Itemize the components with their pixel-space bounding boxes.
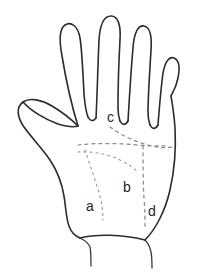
hand-diagram-figure: c b a d	[0, 0, 203, 273]
hand-drawing	[0, 0, 203, 273]
ring-finger-outline	[128, 26, 151, 125]
crease-lower-transverse	[78, 152, 138, 172]
crease-main-transverse	[78, 144, 166, 147]
region-label-b: b	[123, 180, 131, 194]
index-finger-outline	[60, 24, 88, 126]
web-middle-ring	[120, 121, 128, 124]
web-ring-little	[150, 125, 158, 128]
web-index-middle	[88, 117, 96, 121]
palm-heel	[80, 235, 145, 240]
region-label-c: c	[107, 110, 114, 124]
region-label-d: d	[148, 204, 156, 218]
region-label-a: a	[86, 199, 94, 213]
fingers-group	[60, 16, 179, 128]
wrist-right-notch	[145, 240, 152, 268]
hand-outline-group	[18, 96, 175, 268]
middle-finger-outline	[96, 16, 120, 121]
crease-region-d-boundary	[143, 146, 145, 228]
crease-upper-transverse	[110, 127, 172, 148]
little-finger-outline	[158, 58, 179, 125]
wrist-left-notch	[80, 238, 91, 266]
